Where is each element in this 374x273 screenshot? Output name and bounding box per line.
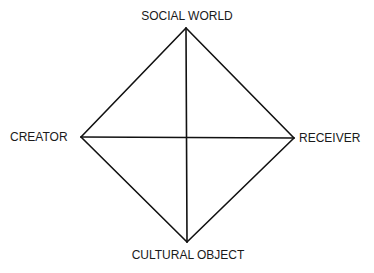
edge-left-right <box>81 137 294 138</box>
edge-top-right <box>186 28 294 138</box>
edge-right-bottom <box>187 138 294 242</box>
node-label-receiver: RECEIVER <box>299 131 360 145</box>
node-label-cultural-object: CULTURAL OBJECT <box>132 248 245 262</box>
node-label-social-world: SOCIAL WORLD <box>141 9 233 23</box>
cultural-diamond-diagram: SOCIAL WORLD CREATOR RECEIVER CULTURAL O… <box>0 0 374 273</box>
node-label-creator: CREATOR <box>10 130 68 144</box>
edge-left-top <box>81 28 186 137</box>
edge-top-bottom <box>186 28 187 242</box>
edge-bottom-left <box>81 137 187 242</box>
